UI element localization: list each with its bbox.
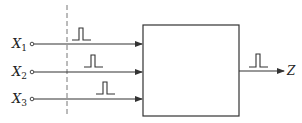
input-x3: X3 [11,82,142,108]
pulse-icon-x2 [84,55,103,67]
input-label-x1: X1 [11,36,27,53]
input-x2: X2 [11,55,142,81]
pulse-icon-output [249,54,268,67]
input-terminal-icon [30,42,34,46]
output-z: Z [239,54,296,78]
input-x1: X1 [11,28,142,53]
timing-diagram: X1 X2 X3 Z [0,0,302,123]
output-label-z: Z [286,64,296,78]
input-label-x3: X3 [11,91,27,108]
logic-block [143,25,239,116]
input-label-x2: X2 [11,64,27,81]
pulse-icon-x1 [72,28,91,40]
pulse-icon-x3 [96,82,115,94]
input-terminal-icon [30,97,34,101]
input-terminal-icon [30,70,34,74]
